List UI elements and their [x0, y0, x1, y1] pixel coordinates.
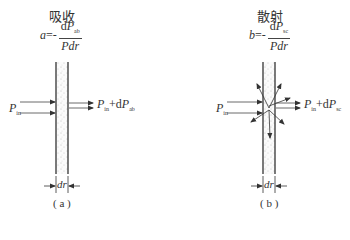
- output-power-label: Pin+dPab: [97, 97, 135, 112]
- absorption-slab: [56, 62, 68, 174]
- numerator: dPab: [59, 20, 82, 39]
- equals-minus: =-: [255, 28, 266, 42]
- equals-minus: =-: [46, 28, 57, 42]
- output-power-label: Pin+dPsc: [304, 97, 341, 112]
- panel-a-caption: ( a ): [53, 197, 71, 209]
- input-power-label: Pin: [216, 101, 228, 116]
- absorption-coefficient-formula: a=-dPabPdr: [40, 20, 82, 53]
- denominator: Pdr: [268, 39, 290, 53]
- thickness-label: dr: [264, 178, 274, 190]
- fraction: dPscPdr: [268, 20, 290, 53]
- denominator: Pdr: [59, 39, 82, 53]
- thickness-label: dr: [57, 178, 67, 190]
- numerator: dPsc: [268, 20, 290, 39]
- fraction: dPabPdr: [59, 20, 82, 53]
- input-power-label: Pin: [9, 101, 21, 116]
- scattering-coefficient-formula: b=-dPscPdr: [249, 20, 290, 53]
- panel-b-caption: ( b ): [260, 197, 278, 209]
